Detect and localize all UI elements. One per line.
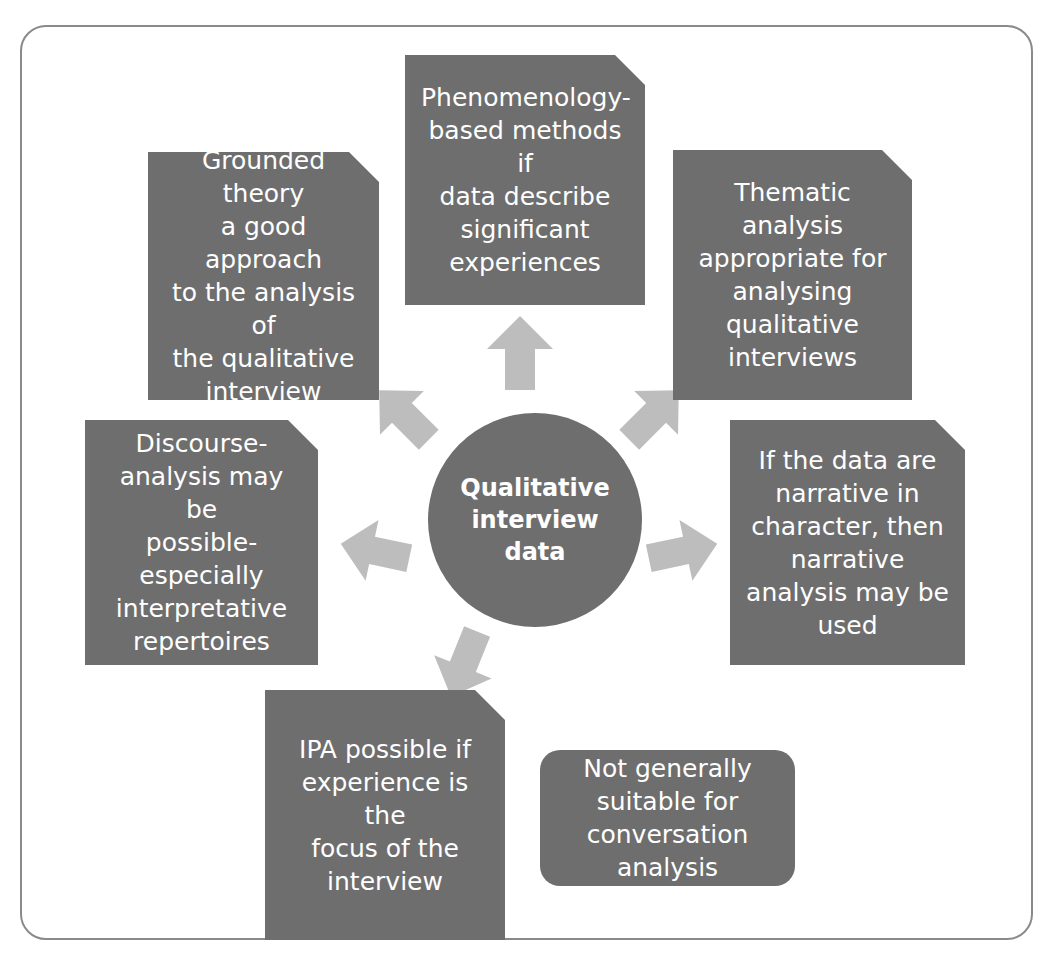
node-discourse-analysis[interactable]: Discourse- analysis may be possible- esp… [85,420,318,665]
node-conversation-analysis-label: Not generally suitable for conversation … [583,752,752,884]
arrow-right-icon [644,512,722,590]
node-thematic-analysis[interactable]: Thematic analysis appropriate for analys… [673,150,912,400]
hub-label: Qualitative interview data [460,472,609,568]
arrow-up-icon [487,316,553,390]
node-ipa-label: IPA possible if experience is the focus … [281,733,489,898]
hub-qualitative-interview-data[interactable]: Qualitative interview data [428,413,642,627]
node-phenomenology[interactable]: Phenomenology- based methods if data des… [405,55,645,305]
diagram-canvas: Phenomenology- based methods if data des… [0,0,1055,979]
arrow-left-icon [336,512,414,590]
node-conversation-analysis[interactable]: Not generally suitable for conversation … [540,750,795,886]
node-grounded-theory-label: Grounded theory a good approach to the a… [164,144,363,408]
node-phenomenology-label: Phenomenology- based methods if data des… [421,81,629,279]
node-discourse-analysis-label: Discourse- analysis may be possible- esp… [101,427,302,658]
node-grounded-theory[interactable]: Grounded theory a good approach to the a… [148,152,379,400]
node-narrative-analysis-label: If the data are narrative in character, … [746,444,949,642]
node-ipa[interactable]: IPA possible if experience is the focus … [265,690,505,940]
node-thematic-analysis-label: Thematic analysis appropriate for analys… [689,176,896,374]
node-narrative-analysis[interactable]: If the data are narrative in character, … [730,420,965,665]
